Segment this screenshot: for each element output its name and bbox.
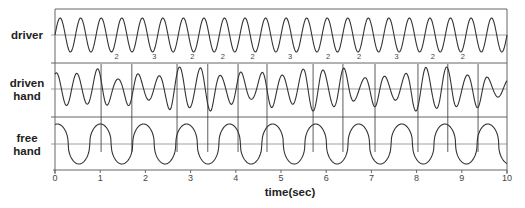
x-tick-label: 7 [369, 173, 374, 183]
x-tick-label: 2 [143, 173, 148, 183]
x-tick-label: 9 [459, 173, 464, 183]
x-axis-label: time(sec) [265, 186, 316, 198]
cycle-count-label: 3 [394, 52, 398, 61]
chart: driverdrivenhandfreehand 23222322322 012… [0, 0, 525, 208]
x-tick-label: 0 [52, 173, 57, 183]
x-axis: 012345678910 [52, 170, 512, 183]
cycle-count-label: 2 [250, 52, 254, 61]
row-label-driven-hand: hand [13, 90, 40, 102]
row-label-free-hand: free [16, 132, 37, 144]
x-tick-label: 8 [414, 173, 419, 183]
x-tick-label: 10 [502, 173, 512, 183]
x-tick-label: 6 [324, 173, 329, 183]
row-labels: driverdrivenhandfreehand [10, 29, 45, 157]
traces [55, 18, 507, 164]
x-tick-label: 5 [278, 173, 283, 183]
plot-frame [51, 9, 507, 174]
x-tick-label: 3 [188, 173, 193, 183]
cycle-count-label: 2 [190, 52, 194, 61]
cycle-count-label: 2 [114, 52, 118, 61]
row-label-driver: driver [11, 29, 43, 41]
x-tick-label: 1 [98, 173, 103, 183]
cycle-count-label: 2 [461, 52, 465, 61]
cycle-count-label: 3 [288, 52, 292, 61]
cycle-count-label: 3 [152, 52, 156, 61]
cycle-count-label: 2 [431, 52, 435, 61]
cycle-count-label: 2 [357, 52, 361, 61]
row-label-driven-hand: driven [10, 77, 45, 89]
x-tick-label: 4 [233, 173, 238, 183]
row-label-free-hand: hand [13, 145, 40, 157]
cycle-count-label: 2 [326, 52, 330, 61]
cycle-count-label: 2 [221, 52, 225, 61]
cycle-count-labels: 23222322322 [114, 52, 465, 61]
